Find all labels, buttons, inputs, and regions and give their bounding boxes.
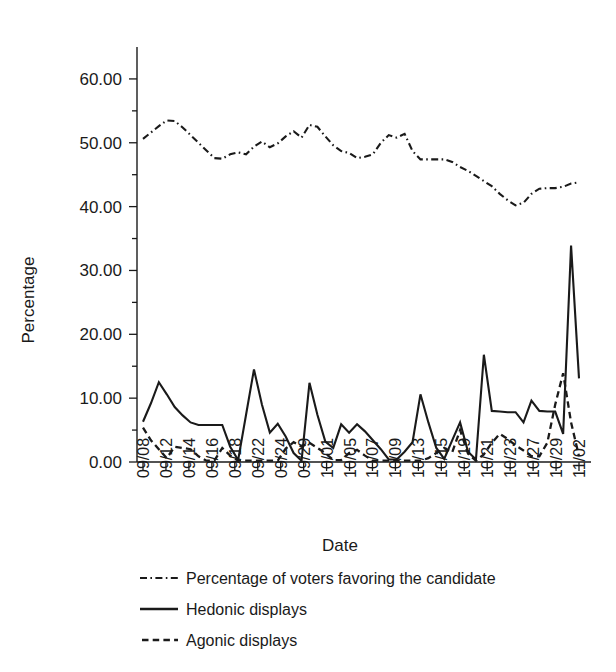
y-axis-tick-label: 10.00 (79, 389, 122, 408)
series-line-percentage-of-voters (143, 120, 579, 205)
x-axis-tick-label: 09/24 (273, 438, 290, 478)
y-axis-tick-label: 50.00 (79, 134, 122, 153)
y-axis-tick-marks (129, 79, 137, 462)
y-axis-tick-labels: 0.0010.0020.0030.0040.0050.0060.00 (79, 70, 122, 472)
x-axis-tick-label: 10/23 (502, 438, 519, 478)
y-axis-tick-label: 0.00 (89, 453, 122, 472)
y-axis-tick-label: 20.00 (79, 325, 122, 344)
x-axis-tick-labels: 09/0809/1209/1409/1609/1809/2209/2409/29… (135, 438, 588, 478)
x-axis-tick-label: 10/21 (479, 438, 496, 478)
legend-label-percentage-of-voters: Percentage of voters favoring the candid… (186, 570, 496, 587)
x-axis-tick-label: 10/13 (410, 438, 427, 478)
y-axis-tick-label: 40.00 (79, 198, 122, 217)
y-axis-tick-label: 60.00 (79, 70, 122, 89)
chart-figure: Percentage 0.0010.0020.0030.0040.0050.00… (0, 0, 616, 672)
y-axis-title-group: Percentage (19, 257, 38, 344)
x-axis-tick-label: 09/22 (250, 438, 267, 478)
y-axis-tick-label: 30.00 (79, 261, 122, 280)
x-axis-tick-label: 09/08 (135, 438, 152, 478)
series-line-hedonic-displays (143, 246, 579, 461)
x-axis-tick-label: 10/05 (342, 438, 359, 478)
y-axis-title: Percentage (19, 257, 38, 344)
x-axis-tick-label: 11/02 (571, 439, 588, 478)
line-chart: Percentage 0.0010.0020.0030.0040.0050.00… (0, 0, 616, 672)
x-axis-tick-label: 10/09 (387, 438, 404, 478)
x-axis-tick-label: 10/27 (525, 438, 542, 478)
x-axis-tick-label: 10/29 (548, 438, 565, 478)
x-axis-tick-label: 09/14 (181, 438, 198, 478)
x-axis-tick-label: 09/16 (204, 438, 221, 478)
legend-label-agonic-displays: Agonic displays (186, 632, 297, 649)
legend: Percentage of voters favoring the candid… (140, 570, 496, 649)
x-axis-title: Date (322, 536, 358, 555)
legend-label-hedonic-displays: Hedonic displays (186, 601, 307, 618)
